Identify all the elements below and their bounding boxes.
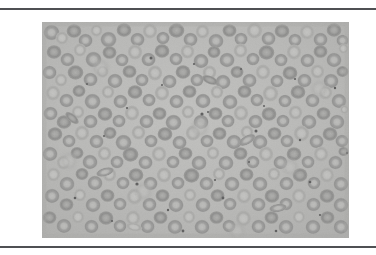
blood-smear-micrograph <box>42 22 349 238</box>
document-page <box>0 0 376 255</box>
horizontal-rule-bottom <box>0 246 376 248</box>
film-grain-overlay <box>42 22 349 238</box>
horizontal-rule-top <box>0 8 376 10</box>
figure-block <box>42 22 349 238</box>
micrograph-canvas <box>42 22 349 238</box>
